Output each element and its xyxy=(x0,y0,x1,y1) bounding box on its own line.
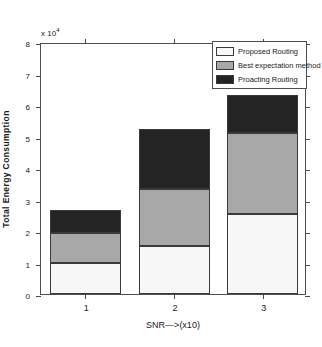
y-tick-mark-right xyxy=(305,170,310,171)
y-tick-mark: 6 xyxy=(36,107,41,108)
y-tick-mark: 2 xyxy=(36,233,41,234)
y-tick-mark: 4 xyxy=(36,170,41,171)
legend-label: Proposed Routing xyxy=(238,47,298,56)
bar-segment[interactable] xyxy=(50,210,121,233)
y-tick-mark: 1 xyxy=(36,265,41,266)
y-tick-label: 2 xyxy=(26,230,30,238)
y-tick-mark-right xyxy=(305,107,310,108)
legend-swatch-icon xyxy=(216,47,234,56)
y-tick-label: 1 xyxy=(26,262,30,270)
y-tick-mark-right xyxy=(305,296,310,297)
chart-legend: Proposed RoutingBest expectation methodP… xyxy=(212,41,307,89)
bar-segment[interactable] xyxy=(50,263,121,294)
x-tick-label: 3 xyxy=(261,304,266,313)
x-axis-title: SNR—>(x10) xyxy=(146,320,200,330)
y-tick-label: 6 xyxy=(26,104,30,112)
bar-segment[interactable] xyxy=(50,233,121,263)
legend-label: Proacting Routing xyxy=(238,75,298,84)
y-tick-label: 3 xyxy=(26,199,30,207)
bar-segment[interactable] xyxy=(139,246,210,294)
y-axis-exponent-label: x 104 xyxy=(41,27,59,38)
x-tick-mark: 1 xyxy=(85,294,86,299)
y-tick-label: 7 xyxy=(26,73,30,81)
y-tick-mark: 3 xyxy=(36,202,41,203)
bar-stack[interactable] xyxy=(50,42,121,294)
bar-segment[interactable] xyxy=(227,133,298,214)
bar-stack[interactable] xyxy=(139,42,210,294)
legend-item[interactable]: Proacting Routing xyxy=(216,73,303,86)
y-tick-mark: 7 xyxy=(36,76,41,77)
legend-item[interactable]: Proposed Routing xyxy=(216,45,303,58)
bar-segment[interactable] xyxy=(139,189,210,246)
x-tick-mark: 2 xyxy=(174,294,175,299)
legend-label: Best expectation method xyxy=(238,61,321,70)
y-tick-mark-right xyxy=(305,265,310,266)
legend-swatch-icon xyxy=(216,75,234,84)
bar-segment[interactable] xyxy=(227,214,298,294)
y-axis-exponent-base: x 10 xyxy=(41,29,56,38)
bar-segment[interactable] xyxy=(139,129,210,189)
x-tick-mark: 3 xyxy=(263,294,264,299)
legend-swatch-icon xyxy=(216,61,234,70)
legend-item[interactable]: Best expectation method xyxy=(216,59,303,72)
y-tick-label: 5 xyxy=(26,136,30,144)
y-tick-mark: 0 xyxy=(36,296,41,297)
x-tick-label: 1 xyxy=(84,304,89,313)
y-tick-label: 0 xyxy=(26,293,30,301)
y-tick-mark-right xyxy=(305,202,310,203)
y-tick-mark-right xyxy=(305,233,310,234)
y-tick-label: 4 xyxy=(26,167,30,175)
y-axis-title: Total Energy Consumption xyxy=(1,110,11,228)
y-tick-mark-right xyxy=(305,139,310,140)
y-axis-exponent-power: 4 xyxy=(56,27,59,33)
y-tick-mark: 8 xyxy=(36,44,41,45)
y-tick-mark: 5 xyxy=(36,139,41,140)
x-tick-label: 2 xyxy=(172,304,177,313)
chart-figure: x 104 Total Energy Consumption SNR—>(x10… xyxy=(0,0,322,347)
bar-segment[interactable] xyxy=(227,95,298,133)
y-tick-label: 8 xyxy=(26,41,30,49)
